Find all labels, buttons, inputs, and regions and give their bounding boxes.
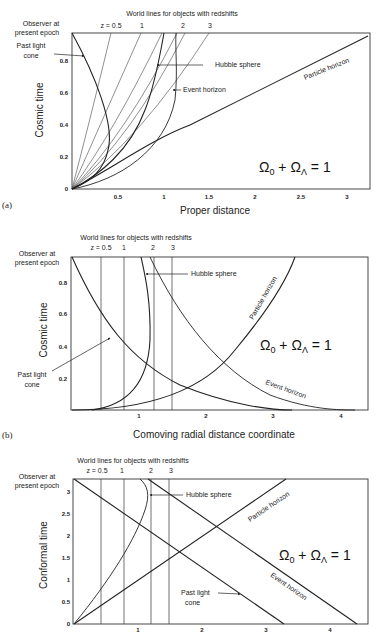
panel-c-frame bbox=[73, 479, 368, 624]
panel-a-yticks: 0 0.2 0.4 0.6 0.8 bbox=[60, 58, 69, 192]
xtick: 2 bbox=[200, 627, 204, 633]
panel-b-z-2: 2 bbox=[151, 244, 155, 251]
panel-b-past-light-cone bbox=[72, 257, 292, 410]
panel-c-xticks: 1 2 3 4 bbox=[136, 627, 332, 633]
xtick: 0.5 bbox=[114, 194, 123, 200]
ytick: 1.5 bbox=[62, 555, 71, 561]
xtick: 3 bbox=[345, 194, 349, 200]
ytick: 0 bbox=[65, 186, 69, 192]
panel-b-xticks: 1 2 3 4 bbox=[137, 413, 343, 419]
panel-c-hubble-label: Hubble sphere bbox=[186, 491, 232, 499]
ytick: 0.8 bbox=[59, 280, 68, 286]
panel-b-plc-line1: Past light bbox=[18, 371, 47, 379]
panel-a-plc-line2: cone bbox=[23, 52, 38, 59]
panel-c-equation: Ω0 + ΩΛ = 1 bbox=[279, 547, 351, 565]
panel-a-event-label: Event horizon bbox=[183, 86, 226, 93]
panel-c-observer-line1: Observer at bbox=[19, 473, 56, 480]
panel-b-z-1: 1 bbox=[122, 244, 126, 251]
panel-a-z-1: 1 bbox=[140, 22, 144, 29]
world-line-z2 bbox=[72, 33, 177, 189]
world-line-mid bbox=[72, 33, 162, 189]
panel-a-particle-label: Particle horizon bbox=[303, 56, 350, 81]
panel-a-world-lines bbox=[72, 33, 209, 189]
ytick: 3 bbox=[67, 489, 71, 495]
panel-c-world-lines bbox=[101, 479, 169, 624]
panel-a-z-0.5: z = 0.5 bbox=[100, 22, 121, 29]
panel-a-equation: Ω0 + ΩΛ = 1 bbox=[259, 159, 331, 177]
panel-c-header: World lines for objects with redshifts bbox=[77, 457, 189, 465]
panel-b-hubble-label: Hubble sphere bbox=[191, 270, 237, 278]
xtick: 2 bbox=[204, 413, 208, 419]
panel-a-observer-line2: present epoch bbox=[15, 29, 59, 37]
panel-c-ylabel: Conformal time bbox=[38, 521, 49, 589]
cosmology-horizon-diagrams: World lines for objects with redshifts z… bbox=[0, 0, 377, 634]
ytick: 0.8 bbox=[60, 58, 69, 64]
panel-c-yticks: 0 0.5 1 1.5 2 2.5 3 bbox=[62, 489, 71, 627]
panel-b-plc-line2: cone bbox=[24, 381, 39, 388]
panel-b-z-0.5: z = 0.5 bbox=[90, 244, 111, 251]
ytick: 0.2 bbox=[59, 376, 68, 382]
panel-b-z-3: 3 bbox=[171, 244, 175, 251]
xtick: 1 bbox=[136, 627, 140, 633]
panel-a-plc-line1: Past light bbox=[17, 42, 46, 50]
panel-b-frame bbox=[71, 257, 368, 410]
panel-b-event-label: Event horizon bbox=[265, 378, 308, 399]
panel-a-z-2: 2 bbox=[181, 22, 185, 29]
panel-a-hubble-label: Hubble sphere bbox=[215, 61, 261, 69]
panel-a: World lines for objects with redshifts z… bbox=[2, 10, 370, 216]
panel-a-plc-arrow bbox=[54, 54, 84, 56]
ytick: 0.4 bbox=[60, 122, 69, 128]
panel-a-past-light-cone bbox=[72, 33, 109, 189]
panel-b-observer-line2: present epoch bbox=[15, 259, 59, 267]
panel-c-z-0.5: z = 0.5 bbox=[86, 467, 107, 474]
ytick: 0.6 bbox=[60, 90, 69, 96]
world-line-extra bbox=[72, 33, 185, 189]
panel-b-event-horizon bbox=[150, 257, 355, 410]
panel-b: World lines for objects with redshifts z… bbox=[2, 234, 368, 440]
panel-c-plc-line1: Past light bbox=[181, 589, 210, 597]
xtick: 4 bbox=[339, 413, 343, 419]
ytick: 0.4 bbox=[59, 344, 68, 350]
xtick: 2.5 bbox=[297, 194, 306, 200]
xtick: 3 bbox=[271, 413, 275, 419]
panel-c-plc-line2: cone bbox=[185, 599, 200, 606]
xtick: 2 bbox=[253, 194, 257, 200]
panel-c-hubble-sphere bbox=[74, 479, 148, 624]
panel-b-ylabel: Cosmic time bbox=[38, 302, 49, 357]
panel-a-header: World lines for objects with redshifts bbox=[126, 10, 238, 18]
panel-c-z-3: 3 bbox=[169, 467, 173, 474]
panel-a-xlabel: Proper distance bbox=[180, 205, 250, 216]
panel-a-event-horizon bbox=[72, 33, 176, 189]
world-line-z3 bbox=[72, 33, 209, 189]
panel-c-particle-label: Particle horizon bbox=[247, 490, 291, 523]
ytick: 0.2 bbox=[60, 154, 69, 160]
ytick: 1 bbox=[67, 577, 71, 583]
panel-b-header: World lines for objects with redshifts bbox=[80, 234, 192, 242]
panel-b-equation: Ω0 + ΩΛ = 1 bbox=[260, 337, 332, 355]
panel-c-plc-arrow bbox=[218, 593, 240, 594]
ytick: 2.5 bbox=[62, 511, 71, 517]
xtick: 1 bbox=[162, 194, 166, 200]
ytick: 0 bbox=[67, 621, 71, 627]
panel-b-particle-horizon bbox=[72, 257, 295, 410]
panel-a-letter: (a) bbox=[2, 200, 12, 210]
panel-a-xticks: 0.5 1 1.5 2 2.5 3 bbox=[114, 194, 350, 200]
ytick: 0.5 bbox=[62, 599, 71, 605]
panel-a-observer-line1: Observer at bbox=[23, 20, 60, 27]
ytick: 0.6 bbox=[59, 311, 68, 317]
xtick: 1 bbox=[137, 413, 141, 419]
panel-c-observer-line2: present epoch bbox=[15, 482, 59, 490]
panel-c: World lines for objects with redshifts z… bbox=[15, 457, 368, 633]
panel-b-xlabel: Comoving radial distance coordinate bbox=[133, 429, 295, 440]
panel-b-letter: (b) bbox=[2, 430, 13, 440]
panel-a-z-3: 3 bbox=[208, 22, 212, 29]
panel-b-observer-line1: Observer at bbox=[19, 250, 56, 257]
xtick: 3 bbox=[264, 627, 268, 633]
panel-c-z-2: 2 bbox=[149, 467, 153, 474]
ytick: 2 bbox=[67, 533, 71, 539]
xtick: 1.5 bbox=[205, 194, 214, 200]
panel-c-z-1: 1 bbox=[120, 467, 124, 474]
xtick: 4 bbox=[328, 627, 332, 633]
panel-a-ylabel: Cosmic time bbox=[34, 82, 45, 137]
